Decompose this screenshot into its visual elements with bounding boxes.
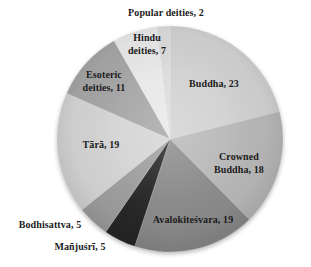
- slice-label-manjusri: Mañjuśrī, 5: [54, 240, 105, 253]
- slice-label-buddha: Buddha, 23: [189, 77, 239, 90]
- slice-label-bodhisattva: Bodhisattva, 5: [19, 218, 82, 231]
- slice-label-tara: Tārā, 19: [83, 138, 120, 151]
- slice-label-hindu-deities: Hindu deities, 7: [128, 31, 166, 57]
- slice-label-esoteric-deities: Esoteric deities, 11: [83, 68, 126, 94]
- slice-label-popular-deities: Popular deities, 2: [128, 6, 204, 19]
- slice-label-avalokitesvara: Avalokiteśvara, 19: [153, 213, 234, 226]
- pie-chart-figure: Popular deities, 2 Hindu deities, 7 Esot…: [0, 0, 311, 267]
- slice-label-crowned-buddha: Crowned Buddha, 18: [203, 150, 275, 176]
